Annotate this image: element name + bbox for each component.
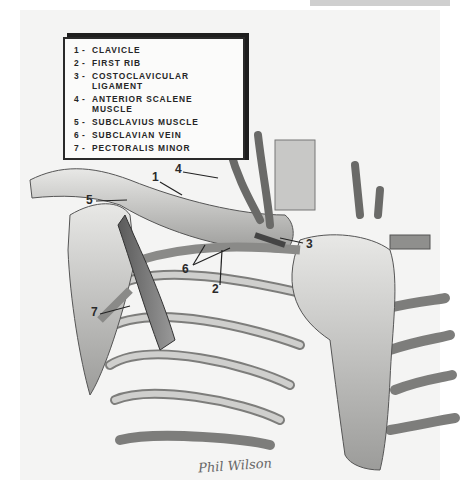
legend-item: 5-SUBCLAVIUS MUSCLE — [74, 117, 235, 127]
vertebra — [275, 140, 315, 210]
subclavian-vein-shape — [140, 247, 300, 260]
callout-2-first-rib: 2 — [212, 282, 219, 296]
callout-3-costoclavicular: 3 — [306, 237, 313, 251]
sternum — [292, 235, 395, 470]
callout-6-subclavian-vein: 6 — [182, 262, 189, 276]
legend-item: 2-FIRST RIB — [74, 58, 235, 68]
legend-item: 1-CLAVICLE — [74, 45, 235, 55]
legend-item: 6-SUBCLAVIAN VEIN — [74, 130, 235, 140]
legend-item: 7-PECTORALIS MINOR — [74, 143, 235, 153]
legend-item: 3-COSTOCLAVICULAR LIGAMENT — [74, 71, 235, 91]
legend-item: 4-ANTERIOR SCALENE MUSCLE — [74, 94, 235, 114]
callout-4-anterior-scalene: 4 — [175, 162, 182, 176]
legend-box: 1-CLAVICLE 2-FIRST RIB 3-COSTOCLAVICULAR… — [63, 37, 245, 160]
callout-1-clavicle: 1 — [152, 170, 159, 184]
callout-5-subclavius: 5 — [86, 193, 93, 207]
anatomy-illustration: 1-CLAVICLE 2-FIRST RIB 3-COSTOCLAVICULAR… — [0, 0, 462, 503]
callout-7-pectoralis-minor: 7 — [91, 305, 98, 319]
